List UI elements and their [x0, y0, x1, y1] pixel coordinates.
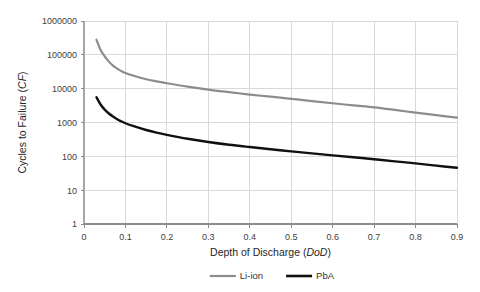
x-tick-label: 0.9: [451, 232, 464, 242]
x-tick-label: 0.3: [202, 232, 215, 242]
y-tick-label: 1: [72, 219, 77, 229]
x-tick-label: 0.5: [285, 232, 298, 242]
y-tick-label: 1000: [57, 118, 77, 128]
y-axis-title: Cycles to Failure (CF): [16, 71, 28, 173]
x-tick-label: 0.6: [326, 232, 339, 242]
legend-label-pba: PbA: [316, 270, 335, 281]
x-tick-label: 0.8: [409, 232, 422, 242]
x-tick-label: 0.2: [161, 232, 174, 242]
x-axis-title: Depth of Discharge (DoD): [210, 246, 331, 258]
legend-label-li-ion: Li-ion: [240, 270, 263, 281]
x-tick-label: 0.7: [368, 232, 381, 242]
chart-figure: 1101001000100001000001000000 00.10.20.30…: [0, 0, 480, 292]
x-tick-label: 0: [81, 232, 86, 242]
y-tick-label: 100: [62, 152, 77, 162]
x-tick-label: 0.4: [244, 232, 257, 242]
y-tick-label: 10000: [52, 84, 77, 94]
y-tick-label: 10: [67, 186, 77, 196]
y-tick-label: 100000: [47, 50, 77, 60]
y-tick-label: 1000000: [42, 16, 77, 26]
x-tick-label: 0.1: [119, 232, 132, 242]
cycles-to-failure-chart: 1101001000100001000001000000 00.10.20.30…: [0, 0, 480, 292]
